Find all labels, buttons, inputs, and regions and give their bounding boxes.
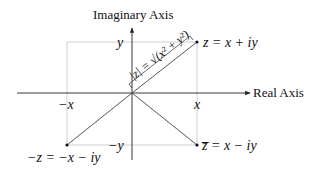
modulus-label-group: |z| = √(x² + y²) bbox=[127, 27, 192, 82]
point-z bbox=[195, 40, 198, 43]
neg-z-label: −z = −x − iy bbox=[27, 150, 101, 165]
z-label: z = x + iy bbox=[202, 35, 258, 50]
modulus-label: |z| = √(x² + y²) bbox=[127, 27, 192, 82]
neg-y-tick-label: −y bbox=[108, 138, 124, 153]
x-tick-label: x bbox=[193, 97, 201, 112]
imaginary-axis-label: Imaginary Axis bbox=[93, 7, 174, 22]
y-tick-label: y bbox=[115, 35, 124, 50]
conj-z-label: z̅ = x − iy bbox=[201, 138, 257, 153]
point-conj-z bbox=[195, 143, 198, 146]
complex-plane-diagram: Imaginary Axis Real Axis y −y x −x z = x… bbox=[0, 0, 321, 176]
neg-x-tick-label: −x bbox=[58, 97, 74, 112]
point-neg-z bbox=[65, 143, 68, 146]
real-axis-label: Real Axis bbox=[253, 85, 304, 100]
